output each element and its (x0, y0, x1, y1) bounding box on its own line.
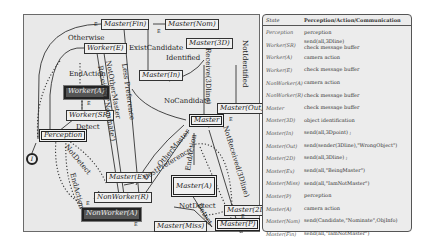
state-transition-diagram: Master(Fin) Master(Nom) Master(3D) Worke… (23, 14, 260, 232)
table-row: Master(Nom)send(Candidate,"Nominate",Obj… (263, 215, 411, 228)
row-action: perception (304, 30, 408, 36)
row-state: Master(Fin) (266, 231, 304, 237)
table-row: Worker(SR)send(all,3Dline) check message… (263, 39, 411, 52)
table-row: Master(Out)send(sender(3Dline),"WrongObj… (263, 139, 411, 152)
edge-label-e: E (134, 220, 138, 228)
row-action: send(all,3Dline) ; (304, 155, 408, 161)
table-row: Master(Miss)send(all,"IamNotMaster") (263, 177, 411, 190)
table-row: Master(2D)send(all,3Dline) ; (263, 152, 411, 165)
row-state: Master(In) (266, 130, 304, 136)
table-row: Worker(A)camera action (263, 51, 411, 64)
row-state: NonWorker(R) (266, 92, 304, 98)
table-row: Master(Fin)send(all,"IamNotMaster") (263, 228, 411, 241)
table-row: Master(A)camera action (263, 202, 411, 215)
row-action: send(all,"BeingMaster") (304, 168, 408, 174)
table-row: Mastercheck message buffer (263, 102, 411, 115)
row-state: NonWorker(A) (266, 80, 304, 86)
table-row: Worker(E)check message buffer (263, 64, 411, 77)
row-action: check message buffer (304, 93, 408, 99)
table-header: State Perception/Action/Communication (263, 15, 411, 26)
edge-label-identified: Identified (166, 54, 200, 62)
row-action: send(all,3Dline) check message buffer (304, 39, 408, 50)
row-action: send(sender(3Dline),"WrongObject") (304, 143, 408, 149)
row-state: Master(Ex) (266, 168, 304, 174)
row-state: Master(P) (266, 193, 304, 199)
node-master-nom: Master(Nom) (165, 19, 219, 30)
table-row: Master(3D)object identification (263, 114, 411, 127)
table-row: Master(P)perception (263, 190, 411, 203)
table-row: Master(In)send(all,3Dpoint) ; (263, 127, 411, 140)
row-action: camera action (304, 206, 408, 212)
row-state: Master(A) (266, 206, 304, 212)
table-row: NonWorker(A)camera action (263, 76, 411, 89)
row-state: Master (266, 105, 304, 111)
node-master-p: Master(P) (215, 218, 260, 231)
edge-label-not-identified: NotIdentified (241, 40, 249, 87)
row-action: send(Candidate,"Nominate",ObjInfo) (304, 218, 408, 224)
node-non-worker-a: NonWorker(A) (82, 208, 141, 221)
node-non-worker-r: NonWorker(R) (94, 192, 152, 203)
row-state: Worker(A) (266, 54, 304, 60)
node-master-miss: Master(Miss) (154, 221, 207, 232)
edge-label-e: E (157, 27, 161, 35)
row-state: Master(2D) (266, 155, 304, 161)
state-action-table: State Perception/Action/Communication Pe… (262, 14, 412, 232)
table-row: NonWorker(R)check message buffer (263, 89, 411, 102)
row-state: Perception (266, 29, 304, 35)
row-action: object identification (304, 118, 408, 124)
node-worker-e: Worker(E) (84, 43, 127, 54)
row-state: Worker(E) (266, 67, 304, 73)
initial-state-icon: I (26, 153, 38, 165)
edge-label-e: E (94, 20, 98, 28)
table-body: PerceptionperceptionWorker(SR)send(all,3… (263, 26, 411, 240)
edge-label-e: E (87, 99, 91, 107)
row-action: send(all,3Dpoint) ; (304, 130, 408, 136)
edge-label-exist-candidate: ExistCandidate (129, 44, 183, 52)
node-master-out: Master(Out) (217, 103, 267, 114)
edge-label-detect: Detect (76, 123, 99, 131)
table-row: Perceptionperception (263, 26, 411, 39)
row-action: camera action (304, 80, 408, 86)
table-row: Master(Ex)send(all,"BeingMaster") (263, 165, 411, 178)
edge-label-e: E (86, 199, 90, 207)
row-state: Master(Out) (266, 143, 304, 149)
row-state: Master(3D) (266, 117, 304, 123)
edge-label-e: E (229, 115, 233, 123)
row-action: check message buffer (304, 105, 408, 111)
row-action: perception (304, 193, 408, 199)
node-master-fin: Master(Fin) (101, 19, 149, 30)
row-state: Master(Miss) (266, 180, 304, 186)
edge-label-otherwise: Otherwise (68, 34, 105, 42)
row-action: send(all,"IamNotMaster") (304, 181, 408, 187)
row-state: Master(Nom) (266, 218, 304, 224)
node-master: Master (189, 114, 224, 127)
node-master-in: Master(In) (139, 70, 183, 81)
header-action: Perception/Action/Communication (304, 15, 408, 25)
row-action: send(all,"IamNotMaster") (304, 231, 408, 237)
row-action: check message buffer (304, 67, 408, 73)
header-state: State (266, 15, 304, 25)
row-state: Worker(SR) (266, 42, 304, 48)
node-master-a: Master(A) (171, 175, 217, 197)
edge-label-e: E (241, 212, 245, 220)
row-action: camera action (304, 55, 408, 61)
edge-label-receive-3dline: Receive(3Dline) (204, 48, 212, 104)
